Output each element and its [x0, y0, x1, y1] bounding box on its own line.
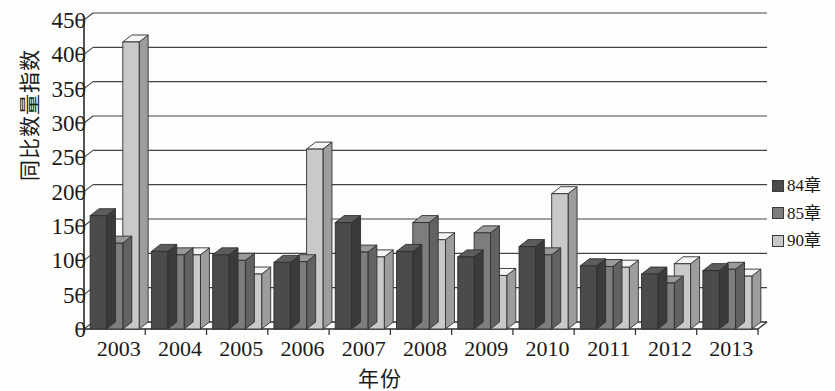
plot-area: [0, 0, 835, 391]
bar-side-face: [200, 248, 209, 329]
bar-side-face: [691, 257, 700, 329]
bar-side-face: [290, 255, 299, 329]
legend-item-85章: 85章: [772, 200, 821, 228]
bar-side-face: [474, 250, 483, 329]
grid-depth-line: [84, 82, 93, 89]
bar-84章-2006: [274, 255, 299, 329]
bar-front-face: [213, 255, 229, 329]
bar-84章-2012: [642, 267, 667, 329]
bar-84章-2013: [703, 264, 728, 329]
bar-side-face: [552, 248, 561, 329]
legend-label: 84章: [787, 172, 821, 200]
bar-84章-2009: [458, 250, 483, 329]
bar-side-face: [368, 245, 377, 329]
bar-side-face: [352, 216, 361, 329]
bar-front-face: [396, 251, 412, 329]
bar-side-face: [719, 264, 728, 329]
bar-side-face: [184, 248, 193, 329]
bar-84章-2011: [580, 259, 605, 329]
bar-side-face: [490, 226, 499, 329]
bar-side-face: [629, 260, 638, 329]
bar-side-face: [168, 244, 177, 329]
bar-side-face: [323, 142, 332, 329]
legend-swatch-icon: [772, 180, 784, 192]
bar-84章-2003: [90, 209, 115, 329]
legend-item-84章: 84章: [772, 172, 821, 200]
legend-label: 90章: [787, 227, 821, 255]
bar-side-face: [307, 255, 316, 329]
grid-depth-line: [84, 150, 93, 157]
bar-front-face: [458, 257, 474, 329]
legend-label: 85章: [787, 200, 821, 228]
bar-front-face: [151, 251, 167, 329]
bar-side-face: [736, 262, 745, 329]
bar-side-face: [568, 187, 577, 329]
bar-front-face: [703, 271, 719, 329]
bar-84章-2004: [151, 244, 176, 329]
grid-depth-line: [84, 47, 93, 54]
bar-front-face: [642, 274, 658, 329]
bar-side-face: [413, 244, 422, 329]
grid-depth-line: [84, 185, 93, 192]
bar-84章-2005: [213, 248, 238, 329]
bar-front-face: [519, 247, 535, 329]
bar-side-face: [535, 240, 544, 329]
bar-side-face: [613, 260, 622, 329]
bar-side-face: [752, 269, 761, 329]
bar-side-face: [597, 259, 606, 329]
bar-side-face: [229, 248, 238, 329]
bar-front-face: [580, 266, 596, 329]
bar-front-face: [90, 216, 106, 329]
grid-depth-line: [84, 13, 93, 20]
bar-side-face: [384, 250, 393, 329]
bar-chart: 同比数量指数 年份 050100150200250300350400450 20…: [0, 0, 835, 391]
bar-side-face: [674, 276, 683, 329]
bar-side-face: [446, 233, 455, 329]
bar-side-face: [106, 209, 115, 329]
bar-front-face: [335, 223, 351, 329]
bar-side-face: [139, 35, 148, 329]
chart-legend: 84章85章90章: [772, 172, 821, 255]
legend-swatch-icon: [772, 207, 784, 219]
bar-84章-2010: [519, 240, 544, 329]
bar-side-face: [658, 267, 667, 329]
legend-swatch-icon: [772, 235, 784, 247]
bar-side-face: [507, 268, 516, 329]
bar-side-face: [262, 267, 271, 329]
bar-side-face: [123, 236, 132, 329]
bar-front-face: [274, 262, 290, 329]
bar-84章-2008: [396, 244, 421, 329]
bar-side-face: [429, 216, 438, 329]
grid-depth-line: [84, 116, 93, 123]
bar-side-face: [245, 253, 254, 329]
bar-84章-2007: [335, 216, 360, 329]
legend-item-90章: 90章: [772, 227, 821, 255]
